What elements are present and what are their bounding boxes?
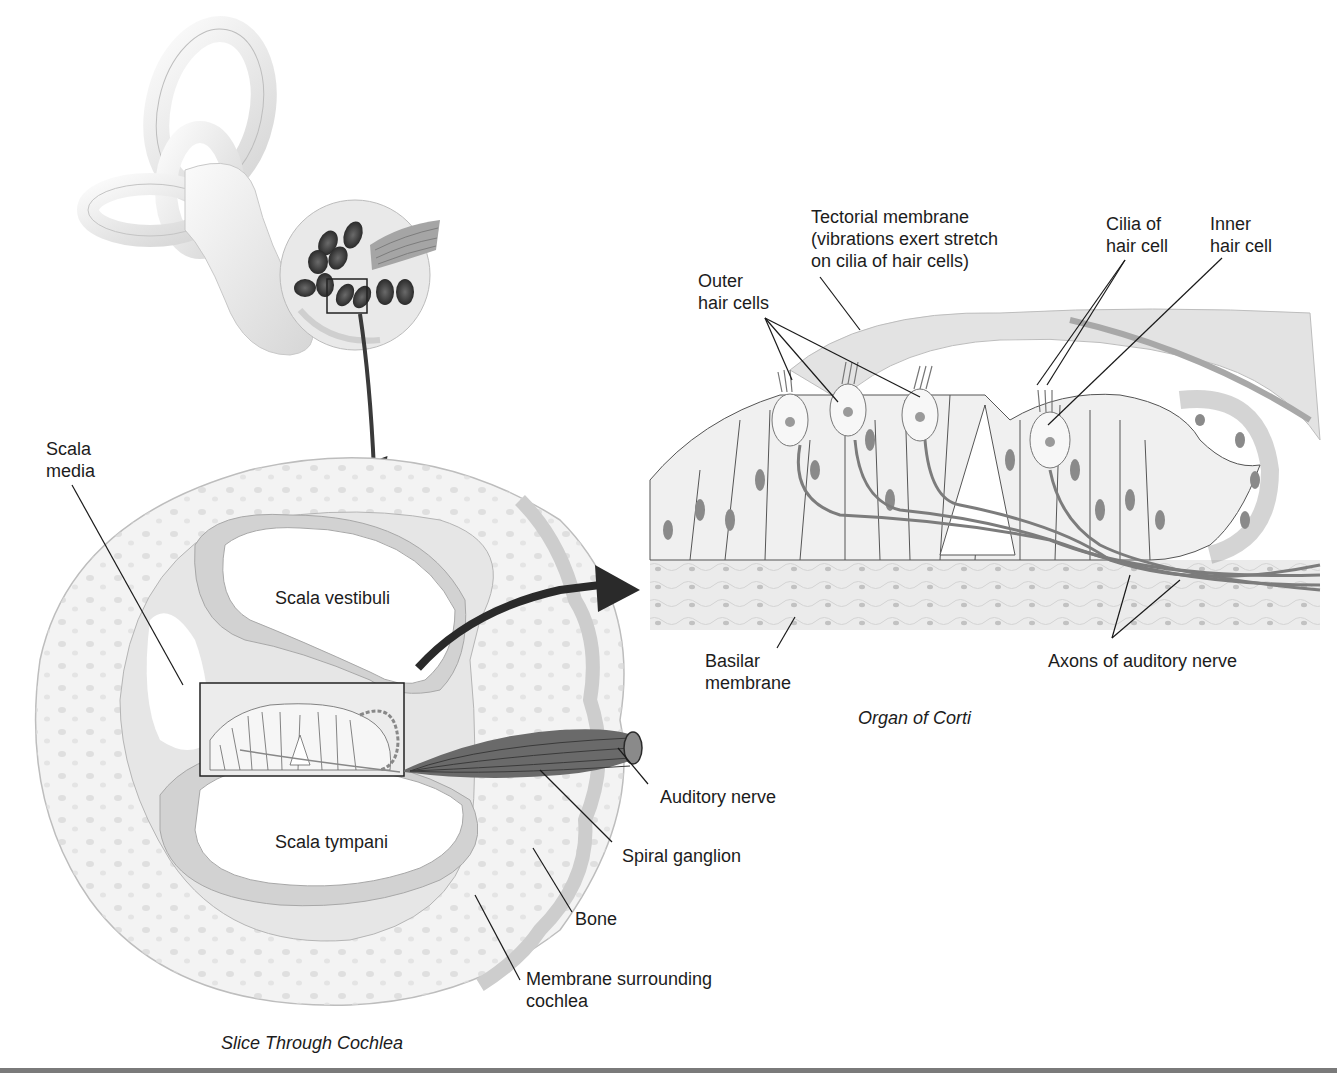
- label-outer-hair-cells: Outer hair cells: [698, 270, 769, 314]
- inner-ear-illustration: [88, 19, 440, 355]
- organ-of-corti-illustration: [650, 309, 1320, 630]
- label-line: hair cell: [1210, 235, 1272, 257]
- label-tectorial-membrane: Tectorial membrane (vibrations exert str…: [811, 206, 998, 272]
- cochlea-figure: Scala media Scala vestibuli Scala tympan…: [0, 0, 1337, 1087]
- label-axons-of-auditory-nerve: Axons of auditory nerve: [1048, 650, 1237, 672]
- cochlea-slice-illustration: [36, 458, 642, 1006]
- label-scala-tympani: Scala tympani: [275, 831, 388, 853]
- bottom-divider: [0, 1068, 1337, 1073]
- label-cilia-of-hair-cell: Cilia of hair cell: [1106, 213, 1168, 257]
- label-line: hair cell: [1106, 235, 1168, 257]
- label-line: Outer: [698, 270, 769, 292]
- label-line: membrane: [705, 672, 791, 694]
- label-basilar-membrane: Basilar membrane: [705, 650, 791, 694]
- caption-slice-through-cochlea: Slice Through Cochlea: [221, 1033, 403, 1054]
- label-bone: Bone: [575, 908, 617, 930]
- label-line: hair cells: [698, 292, 769, 314]
- label-spiral-ganglion: Spiral ganglion: [622, 845, 741, 867]
- label-scala-media: Scala media: [46, 438, 95, 482]
- label-line: Scala: [46, 438, 95, 460]
- label-scala-vestibuli: Scala vestibuli: [275, 587, 390, 609]
- label-line: Cilia of: [1106, 213, 1168, 235]
- label-line: cochlea: [526, 990, 712, 1012]
- label-line: on cilia of hair cells): [811, 250, 998, 272]
- label-line: media: [46, 460, 95, 482]
- label-line: (vibrations exert stretch: [811, 228, 998, 250]
- label-inner-hair-cell: Inner hair cell: [1210, 213, 1272, 257]
- caption-organ-of-corti: Organ of Corti: [858, 708, 971, 729]
- label-auditory-nerve: Auditory nerve: [660, 786, 776, 808]
- label-line: Tectorial membrane: [811, 206, 998, 228]
- label-line: Basilar: [705, 650, 791, 672]
- label-line: Membrane surrounding: [526, 968, 712, 990]
- label-line: Inner: [1210, 213, 1272, 235]
- label-membrane-surrounding-cochlea: Membrane surrounding cochlea: [526, 968, 712, 1012]
- illustration: [0, 0, 1337, 1087]
